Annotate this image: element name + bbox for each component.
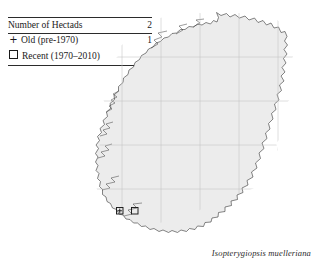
square-icon xyxy=(9,50,18,59)
plus-icon: + xyxy=(8,35,19,45)
ireland-coastline xyxy=(96,13,288,233)
landmass-group xyxy=(96,13,288,233)
legend-label-old: Old (pre-1970) xyxy=(21,35,78,45)
map-canvas xyxy=(88,8,316,256)
distribution-map-page: Number of Hectads 2 +Old (pre-1970) 1 Re… xyxy=(0,0,324,269)
ireland-map xyxy=(88,8,316,256)
species-caption: Isopterygiopsis muelleriana xyxy=(212,248,311,258)
